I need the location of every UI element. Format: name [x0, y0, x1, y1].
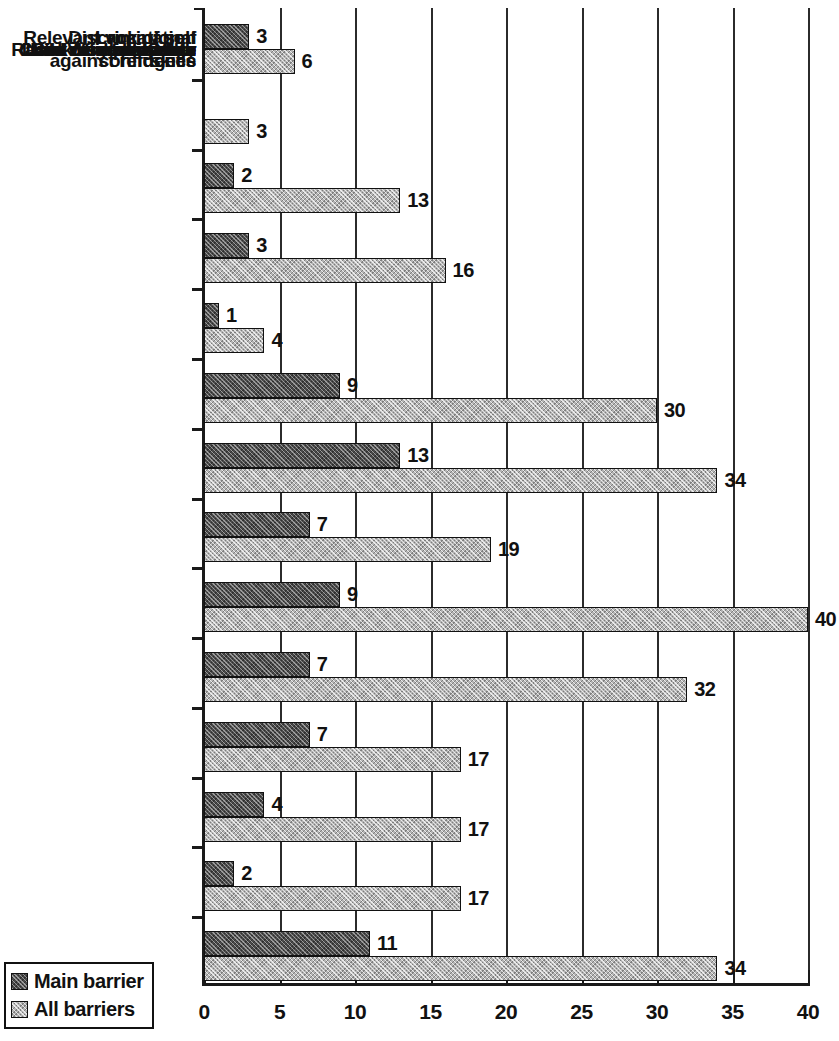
bar-value-main-barrier: 7	[317, 513, 328, 536]
bar-value-all-barriers: 17	[468, 748, 489, 771]
bar-main-barrier	[204, 931, 370, 956]
bar-all-barriers	[204, 258, 446, 283]
bar-value-all-barriers: 34	[724, 469, 745, 492]
bar-all-barriers	[204, 119, 249, 144]
x-tick-label: 25	[570, 1000, 592, 1024]
bar-value-main-barrier: 2	[241, 164, 252, 187]
bar-group: 930	[204, 357, 808, 427]
bar-main-barrier	[204, 163, 234, 188]
bar-main-barrier	[204, 861, 234, 886]
bar-all-barriers	[204, 747, 461, 772]
bar-all-barriers	[204, 537, 491, 562]
bar-all-barriers	[204, 468, 717, 493]
category-tick	[192, 288, 204, 291]
bar-main-barrier	[204, 512, 310, 537]
bar-group: 316	[204, 217, 808, 287]
x-tick-label: 5	[274, 1000, 285, 1024]
bar-value-all-barriers: 19	[498, 538, 519, 561]
bar-group: 1134	[204, 915, 808, 985]
bar-group: 213	[204, 148, 808, 218]
bar-group: 717	[204, 706, 808, 776]
bar-value-main-barrier: 13	[407, 444, 428, 467]
bar-value-all-barriers: 3	[256, 120, 267, 143]
bar-value-main-barrier: 11	[377, 932, 397, 955]
bar-group: 36	[204, 8, 808, 78]
legend-swatch-main-barrier	[11, 973, 28, 990]
bar-value-main-barrier: 7	[317, 723, 328, 746]
bar-group: 3	[204, 78, 808, 148]
bar-all-barriers	[204, 188, 400, 213]
x-tick-label: 10	[344, 1000, 366, 1024]
bar-main-barrier	[204, 373, 340, 398]
legend-swatch-all-barriers	[11, 1001, 28, 1018]
bar-value-all-barriers: 16	[453, 259, 474, 282]
bar-all-barriers	[204, 398, 657, 423]
bar-value-main-barrier: 9	[347, 583, 358, 606]
bar-value-main-barrier: 2	[241, 862, 252, 885]
legend-item-all-barriers: All barriers	[11, 995, 144, 1023]
bar-group: 719	[204, 497, 808, 567]
bar-value-main-barrier: 4	[271, 793, 282, 816]
bar-value-main-barrier: 7	[317, 653, 328, 676]
y-axis-top-cap	[194, 8, 204, 10]
bar-all-barriers	[204, 817, 461, 842]
chart-legend: Main barrier All barriers	[4, 962, 154, 1029]
bar-all-barriers	[204, 49, 295, 74]
legend-label-all-barriers: All barriers	[34, 998, 135, 1021]
category-tick	[192, 846, 204, 849]
bar-value-main-barrier: 1	[226, 304, 237, 327]
category-tick	[192, 149, 204, 152]
bar-value-all-barriers: 34	[724, 957, 745, 980]
x-tick-label: 40	[797, 1000, 819, 1024]
bar-main-barrier	[204, 233, 249, 258]
bar-value-all-barriers: 13	[407, 189, 428, 212]
x-tick-label: 35	[721, 1000, 743, 1024]
category-tick	[192, 567, 204, 570]
legend-label-main-barrier: Main barrier	[34, 970, 144, 993]
category-tick	[192, 707, 204, 710]
bar-value-all-barriers: 30	[664, 399, 685, 422]
legend-item-main-barrier: Main barrier	[11, 967, 144, 995]
plot-area: 0510152025303540 36321331614930133471994…	[204, 8, 808, 985]
category-tick	[192, 777, 204, 780]
bar-group: 417	[204, 776, 808, 846]
category-tick	[192, 916, 204, 919]
bar-main-barrier	[204, 303, 219, 328]
bar-value-all-barriers: 32	[694, 678, 715, 701]
category-tick	[192, 358, 204, 361]
bar-value-all-barriers: 17	[468, 818, 489, 841]
bar-value-all-barriers: 6	[302, 50, 313, 73]
category-tick	[192, 498, 204, 501]
bar-value-all-barriers: 4	[271, 329, 282, 352]
bar-all-barriers	[204, 328, 264, 353]
bar-main-barrier	[204, 24, 249, 49]
x-tick	[808, 970, 810, 986]
bar-group: 217	[204, 845, 808, 915]
bar-value-main-barrier: 9	[347, 374, 358, 397]
bar-group: 732	[204, 636, 808, 706]
bar-group: 1334	[204, 427, 808, 497]
x-tick-label: 15	[419, 1000, 441, 1024]
bar-all-barriers	[204, 677, 687, 702]
bar-value-main-barrier: 3	[256, 25, 267, 48]
category-tick	[192, 637, 204, 640]
gridline	[808, 8, 810, 985]
bar-value-main-barrier: 3	[256, 234, 267, 257]
bar-main-barrier	[204, 652, 310, 677]
bar-all-barriers	[204, 956, 717, 981]
bar-main-barrier	[204, 443, 400, 468]
horizontal-bar-chart: 0510152025303540 36321331614930133471994…	[0, 0, 839, 1041]
x-tick-label: 20	[495, 1000, 517, 1024]
x-tick-label: 30	[646, 1000, 668, 1024]
bar-value-all-barriers: 40	[815, 608, 836, 631]
category-tick	[192, 218, 204, 221]
bar-all-barriers	[204, 886, 461, 911]
bar-main-barrier	[204, 722, 310, 747]
category-label: Language	[0, 37, 196, 60]
bar-group: 14	[204, 287, 808, 357]
category-tick	[192, 79, 204, 82]
bar-main-barrier	[204, 582, 340, 607]
bar-value-all-barriers: 17	[468, 887, 489, 910]
category-label-line: Language	[0, 37, 196, 60]
bar-all-barriers	[204, 607, 808, 632]
